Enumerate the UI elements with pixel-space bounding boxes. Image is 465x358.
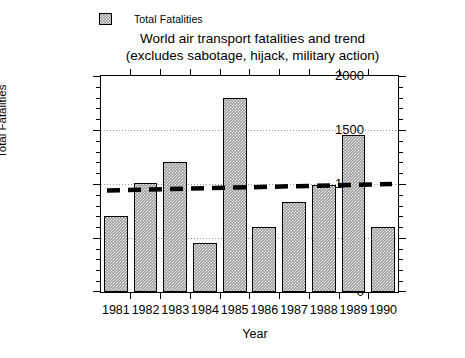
chart-legend: Total Fatalities: [99, 11, 203, 27]
y-major-tick-1000: [93, 184, 101, 185]
x-tick-top-b9: [368, 69, 369, 76]
chart-title-block: World air transport fatalities and trend…: [0, 30, 465, 64]
x-tick-top-b8: [339, 69, 340, 76]
y-minor-tick-right-600: [398, 227, 403, 228]
chart-title-line-1: World air transport fatalities and trend: [0, 30, 465, 47]
x-tick-b1: [130, 292, 131, 299]
y-minor-tick-right-1300: [398, 152, 403, 153]
x-tick-top-b6: [279, 69, 280, 76]
y-major-tick-500: [93, 238, 101, 239]
x-tick-b3: [190, 292, 191, 299]
x-tick-label-1990: 1990: [363, 303, 403, 317]
y-minor-tick-right-900: [398, 195, 403, 196]
x-tick-b9: [368, 292, 369, 299]
x-tick-b4: [220, 292, 221, 299]
legend-label-total-fatalities: Total Fatalities: [134, 13, 203, 25]
x-tick-b2: [160, 292, 161, 299]
x-tick-b7: [309, 292, 310, 299]
y-major-tick-right-2000: [398, 76, 406, 77]
y-minor-tick-right-1100: [398, 173, 403, 174]
y-minor-tick-right-1400: [398, 141, 403, 142]
x-tick-top-b1: [130, 69, 131, 76]
chart-container: Total Fatalities World air transport fat…: [0, 0, 465, 358]
y-minor-tick-right-700: [398, 216, 403, 217]
y-minor-tick-right-400: [398, 249, 403, 250]
y-minor-tick-right-300: [398, 259, 403, 260]
x-tick-top-b7: [309, 69, 310, 76]
x-tick-top-b2: [160, 69, 161, 76]
y-major-tick-right-1500: [398, 130, 406, 131]
y-major-tick-right-0: [398, 291, 406, 292]
y-minor-tick-right-1200: [398, 162, 403, 163]
trend-line: [107, 184, 392, 190]
x-axis-title: Year: [0, 327, 465, 341]
x-tick-top-b4: [220, 69, 221, 76]
x-tick-top-b5: [249, 69, 250, 76]
y-minor-tick-right-200: [398, 270, 403, 271]
x-tick-b8: [339, 292, 340, 299]
y-minor-tick-right-100: [398, 281, 403, 282]
y-axis-title: Total Fatalities: [0, 84, 8, 158]
x-tick-b6: [279, 292, 280, 299]
y-minor-tick-right-800: [398, 206, 403, 207]
y-major-tick-0: [93, 291, 101, 292]
y-minor-tick-right-1800: [398, 98, 403, 99]
y-minor-tick-right-1700: [398, 108, 403, 109]
x-tick-b5: [249, 292, 250, 299]
y-minor-tick-right-1600: [398, 119, 403, 120]
x-tick-top-b3: [190, 69, 191, 76]
y-major-tick-right-1000: [398, 184, 406, 185]
chart-title-line-2: (excludes sabotage, hijack, military act…: [0, 47, 465, 64]
y-major-tick-right-500: [398, 238, 406, 239]
legend-swatch-icon: [99, 13, 112, 25]
y-minor-tick-right-1900: [398, 87, 403, 88]
y-major-tick-2000: [93, 76, 101, 77]
y-major-tick-1500: [93, 130, 101, 131]
plot-area: [101, 76, 398, 292]
trend-line-svg: [101, 76, 398, 292]
